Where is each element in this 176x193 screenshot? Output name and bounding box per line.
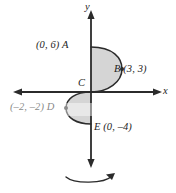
point-label-c: C — [78, 78, 85, 89]
y-axis-label: y — [85, 2, 90, 13]
point-label-e: E (0, –4) — [94, 122, 132, 133]
math-figure-revolution-about-y-axis: (0, 6) A B (3, 3) C (–2, –2) D E (0, –4)… — [0, 0, 176, 193]
x-axis-arrowhead-right — [153, 88, 162, 95]
point-label-d: (–2, –2) D — [10, 102, 54, 113]
lower-shaded-region — [66, 92, 91, 124]
point-label-a: (0, 6) A — [36, 40, 68, 51]
point-marker-d — [64, 106, 68, 110]
rotation-arc — [66, 176, 112, 182]
x-axis-label: x — [163, 86, 168, 97]
point-label-b: B (3, 3) — [114, 64, 147, 75]
x-axis-arrowhead-left — [13, 88, 22, 95]
y-axis-arrowhead-down — [87, 159, 94, 168]
figure-canvas — [0, 0, 176, 193]
